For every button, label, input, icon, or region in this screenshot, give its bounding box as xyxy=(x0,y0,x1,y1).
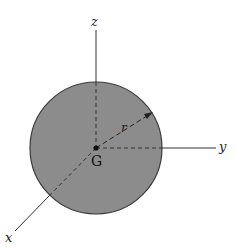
center-label: G xyxy=(91,153,102,169)
z-axis-label: z xyxy=(90,14,98,29)
center-point xyxy=(93,145,98,150)
x-axis-outer xyxy=(15,196,49,231)
sphere-diagram: z y x r G xyxy=(0,0,235,247)
x-axis-label: x xyxy=(5,230,13,245)
y-axis-label: y xyxy=(218,139,227,154)
